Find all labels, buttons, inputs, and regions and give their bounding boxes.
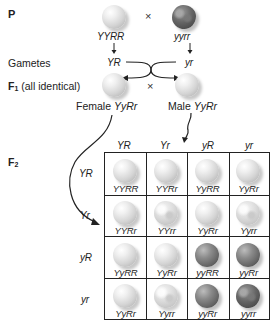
punnett-cell: YYrr bbox=[146, 195, 187, 237]
f1-female-pea bbox=[102, 73, 126, 97]
cell-genotype: YyRr bbox=[105, 308, 146, 319]
punnett-cell: YyRr bbox=[228, 153, 269, 195]
column-header: YR bbox=[117, 140, 131, 151]
pea-round-green bbox=[236, 243, 260, 267]
row-header: Yr bbox=[80, 210, 90, 221]
punnett-cell: YyRr bbox=[146, 237, 187, 279]
cell-genotype: YyRR bbox=[187, 183, 228, 194]
f1-label-sub: 1 bbox=[14, 85, 18, 92]
pea-round-yellow bbox=[195, 201, 219, 225]
f1-male-caption: Male YyRr bbox=[168, 100, 217, 112]
cell-genotype: Yyrr bbox=[146, 308, 187, 319]
cell-genotype: yyRr bbox=[228, 267, 269, 278]
f2-generation-label: F2 bbox=[8, 156, 18, 168]
arrow-down-icon bbox=[186, 43, 194, 55]
pea-round-yellow bbox=[113, 284, 137, 308]
cell-genotype: YyRR bbox=[105, 267, 146, 278]
punnett-cell: YYRr bbox=[146, 153, 187, 195]
gametes-label: Gametes bbox=[8, 57, 51, 69]
column-header: Yr bbox=[160, 140, 170, 151]
punnett-square: YYRR YYRr YyRR YyRr YYRr YYrr YyRr Yyrr … bbox=[104, 152, 270, 320]
pea-round-yellow bbox=[236, 159, 260, 183]
cell-genotype: YYRr bbox=[105, 225, 146, 236]
gamete-2: yr bbox=[185, 57, 193, 68]
punnett-cell: yyrr bbox=[228, 278, 269, 320]
parental-cross-symbol: × bbox=[145, 10, 151, 22]
cell-genotype: yyRR bbox=[187, 267, 228, 278]
punnett-cell: YYRR bbox=[105, 153, 146, 195]
cell-genotype: YYRR bbox=[105, 183, 146, 194]
pea-round-yellow bbox=[113, 159, 137, 183]
cell-genotype: YyRr bbox=[187, 225, 228, 236]
pea-wrinkled-yellow bbox=[236, 201, 260, 225]
cell-genotype: YYRr bbox=[146, 183, 187, 194]
pea-round-yellow bbox=[154, 243, 178, 267]
gamete-1: YR bbox=[107, 57, 121, 68]
male-label: Male bbox=[168, 100, 191, 112]
punnett-cell: Yyrr bbox=[146, 278, 187, 320]
pea-wrinkled-green bbox=[236, 284, 260, 308]
male-gametes-arrow-icon bbox=[180, 112, 196, 144]
pea-round-yellow bbox=[154, 159, 178, 183]
punnett-cell: yyRr bbox=[228, 237, 269, 279]
parental-generation-label: P bbox=[8, 8, 15, 20]
row-header: YR bbox=[79, 168, 93, 179]
pea-round-green bbox=[195, 284, 219, 308]
arrow-down-icon bbox=[110, 43, 118, 55]
column-header: yr bbox=[245, 140, 253, 151]
parent-pea-round-yellow bbox=[102, 5, 126, 29]
column-header: yR bbox=[202, 140, 214, 151]
pea-round-yellow bbox=[195, 159, 219, 183]
f1-generation-label: F1 (all identical) bbox=[8, 80, 80, 92]
f1-male-pea bbox=[175, 73, 199, 97]
punnett-cell: YYRr bbox=[105, 195, 146, 237]
punnett-cell: yyRr bbox=[187, 278, 228, 320]
pea-round-yellow bbox=[113, 201, 137, 225]
f1-label-note: (all identical) bbox=[21, 80, 80, 92]
cell-genotype: yyRr bbox=[187, 308, 228, 319]
pea-round-yellow bbox=[113, 243, 137, 267]
punnett-cell: YyRR bbox=[187, 153, 228, 195]
punnett-cell: YyRr bbox=[105, 278, 146, 320]
pea-wrinkled-yellow bbox=[154, 284, 178, 308]
punnett-cell: YyRr bbox=[187, 195, 228, 237]
male-genotype: YyRr bbox=[194, 100, 217, 112]
crossing-arrows-icon bbox=[120, 58, 182, 82]
cell-genotype: yyrr bbox=[228, 308, 269, 319]
parent-genotype-1: YYRR bbox=[97, 31, 124, 42]
cell-genotype: Yyrr bbox=[228, 225, 269, 236]
f1-cross-symbol: × bbox=[147, 80, 153, 92]
punnett-cell: Yyrr bbox=[228, 195, 269, 237]
cell-genotype: YyRr bbox=[146, 267, 187, 278]
punnett-cell: yyRR bbox=[187, 237, 228, 279]
parent-genotype-2: yyrr bbox=[174, 31, 190, 42]
cell-genotype: YYrr bbox=[146, 225, 187, 236]
cell-genotype: YyRr bbox=[228, 183, 269, 194]
pea-round-green bbox=[195, 243, 219, 267]
row-header: yR bbox=[80, 252, 92, 263]
row-header: yr bbox=[81, 294, 89, 305]
parent-pea-wrinkled-green bbox=[172, 5, 196, 29]
punnett-cell: YyRR bbox=[105, 237, 146, 279]
pea-wrinkled-yellow bbox=[154, 201, 178, 225]
f2-label-sub: 2 bbox=[14, 161, 18, 168]
